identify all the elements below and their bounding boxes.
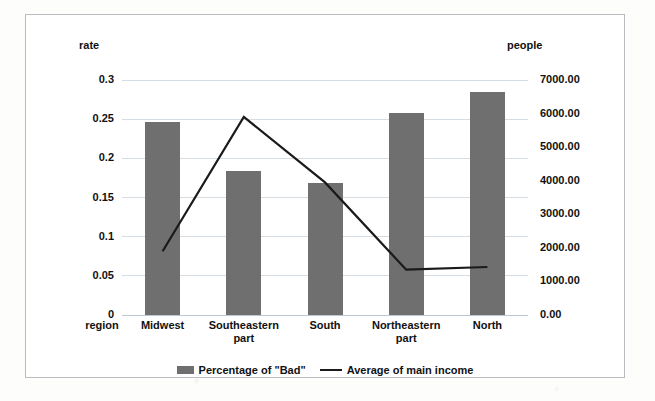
left-axis-tick-label: 0 [70, 308, 114, 320]
right-axis-tick-label: 6000.00 [540, 107, 610, 119]
legend-label-bad-percentage: Percentage of "Bad" [199, 364, 306, 376]
legend-item-average-income: Average of main income [320, 364, 474, 376]
right-axis-tick-label: 0.00 [540, 308, 610, 320]
left-axis-title: rate [79, 39, 99, 51]
left-axis-tick-label: 0.05 [70, 269, 114, 281]
right-axis-tick-label: 1000.00 [540, 274, 610, 286]
left-axis-tick-label: 0.1 [70, 230, 114, 242]
left-axis-tick-label: 0.2 [70, 151, 114, 163]
x-axis-tick-label: North [447, 319, 528, 332]
line-path [163, 117, 488, 270]
left-axis-tick-label: 0.15 [70, 191, 114, 203]
x-axis-tick-label: South [284, 319, 365, 332]
legend-item-bad-percentage: Percentage of "Bad" [177, 364, 306, 376]
x-axis-tick-label: Northeastern part [366, 319, 447, 345]
x-axis-tick-label: Midwest [122, 319, 203, 332]
right-axis-tick-label: 5000.00 [540, 140, 610, 152]
plot-area [122, 80, 528, 315]
right-axis-title: people [507, 39, 542, 51]
line-series [122, 80, 528, 315]
right-axis-tick-label: 2000.00 [540, 241, 610, 253]
left-axis-tick-label: 0.25 [70, 112, 114, 124]
bar-swatch-icon [177, 366, 194, 374]
left-axis-tick-label: 0.3 [70, 73, 114, 85]
x-axis-tick-label: Southeastern part [203, 319, 284, 345]
legend-label-average-income: Average of main income [347, 364, 474, 376]
right-axis-tick-label: 4000.00 [540, 174, 610, 186]
right-axis-tick-label: 7000.00 [540, 73, 610, 85]
line-marker-icon [320, 369, 342, 371]
right-axis-tick-label: 3000.00 [540, 207, 610, 219]
chart-container: rate people region 00.050.10.150.20.250.… [25, 14, 625, 378]
gridline [122, 315, 528, 316]
chart-legend: Percentage of "Bad" Average of main inco… [26, 364, 624, 376]
